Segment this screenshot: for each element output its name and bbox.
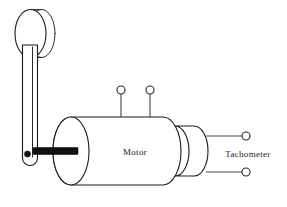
motor-terminal-2-icon[interactable] [146,86,154,94]
tachometer-terminal-1-icon[interactable] [242,132,250,140]
crank-pivot-hole [24,151,30,157]
motor-tachometer-diagram: Motor Tachometer [0,0,287,207]
motor-terminal-1-icon[interactable] [117,86,125,94]
motor-shaft [33,148,78,155]
motor-terminals [117,86,154,117]
tachometer-terminal-2-icon[interactable] [242,168,250,176]
motor-label: Motor [123,147,147,157]
motor-shaft-bar [33,148,78,155]
tachometer-label: Tachometer [225,149,270,159]
diagram-canvas: Motor Tachometer [0,0,287,207]
